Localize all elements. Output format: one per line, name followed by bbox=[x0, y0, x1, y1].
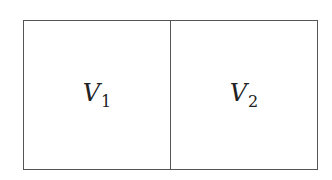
partition-rectangle: V1 V2 bbox=[23, 20, 318, 170]
region-v2-subscript: 2 bbox=[248, 92, 258, 111]
region-v2-label: V2 bbox=[230, 79, 259, 111]
region-v1-subscript: 1 bbox=[101, 92, 111, 111]
region-v2: V2 bbox=[171, 21, 317, 169]
region-v1-symbol: V bbox=[83, 79, 100, 107]
region-v2-symbol: V bbox=[230, 79, 247, 107]
region-v1-label: V1 bbox=[83, 79, 112, 111]
region-v1: V1 bbox=[24, 21, 171, 169]
